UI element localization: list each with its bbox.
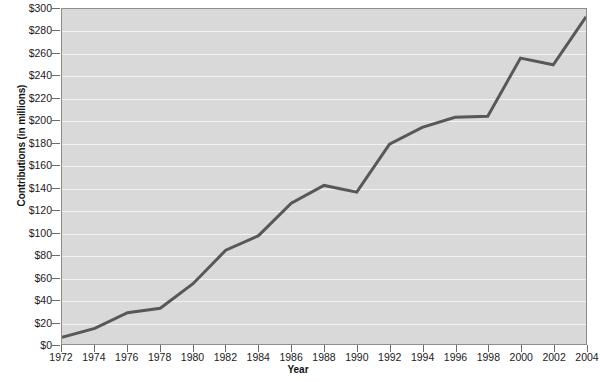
y-tick-mark [52,188,60,189]
y-tick-label: $180 [0,137,52,149]
y-tick-label: $60 [0,272,52,284]
y-tick-mark [52,255,60,256]
y-tick-mark [52,345,60,346]
y-tick-mark [52,278,60,279]
y-tick-mark [52,143,60,144]
y-tick-label: $240 [0,69,52,81]
y-tick-label: $300 [0,2,52,14]
series-line-contributions [62,9,586,344]
x-axis-title: Year [0,364,596,375]
y-tick-label: $200 [0,114,52,126]
y-tick-mark [52,323,60,324]
y-tick-mark [52,233,60,234]
y-tick-mark [52,120,60,121]
y-tick-label: $140 [0,182,52,194]
y-tick-mark [52,210,60,211]
y-tick-label: $220 [0,92,52,104]
y-tick-mark [52,53,60,54]
y-tick-label: $280 [0,24,52,36]
y-tick-label: $120 [0,204,52,216]
x-tick-label: 2004 [565,351,603,363]
y-tick-label: $160 [0,159,52,171]
y-tick-mark [52,75,60,76]
y-tick-label: $80 [0,249,52,261]
plot-area [61,8,587,345]
y-tick-label: $260 [0,47,52,59]
y-tick-label: $20 [0,317,52,329]
y-tick-label: $0 [0,339,52,351]
y-tick-mark [52,8,60,9]
y-tick-mark [52,30,60,31]
y-tick-mark [52,98,60,99]
y-tick-label: $100 [0,227,52,239]
y-tick-label: $40 [0,294,52,306]
y-tick-mark [52,300,60,301]
y-tick-mark [52,165,60,166]
plot-inner [62,9,586,344]
